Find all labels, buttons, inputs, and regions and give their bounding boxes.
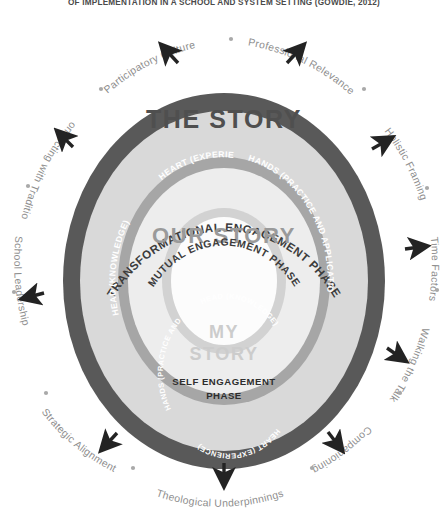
enabler-label-school-leadership: School Leadership (12, 236, 32, 327)
arrow-icon-time-factors (405, 247, 420, 249)
separator-dot (99, 87, 103, 91)
separator-dot (26, 184, 30, 188)
enabler-label-connecting-with-tradition: Connecting with Tradition (0, 0, 78, 221)
arrow-icon-companioning (328, 432, 338, 445)
my-story-heading-line2: STORY (189, 344, 258, 364)
enabler-label-time-factors: Time Factors (427, 236, 441, 302)
separator-dot (362, 87, 366, 91)
enabler-label-companioning: Companioning (310, 424, 374, 476)
enabler-label-theological-underpinnings: Theological Underpinnings (155, 488, 285, 509)
arrow-icon-walking-the-talk (387, 348, 400, 357)
arrow-icon-strategic-alignment (106, 433, 117, 445)
separator-dot (435, 288, 439, 292)
my-story-subheading-line1: SELF ENGAGEMENT (172, 376, 275, 387)
separator-dot (131, 466, 135, 470)
enabler-label-walking-the-talk: Walking the Talk (387, 327, 431, 405)
concentric-engagement-diagram: HEAD (KNOWLEDGE) HEART (EXPERIENCE) HAND… (0, 0, 448, 524)
the-story-heading: THE STORY (146, 105, 302, 133)
separator-dot (229, 37, 233, 41)
enabler-label-holistic-framing: Holistic Framing (383, 126, 430, 202)
separator-dot (425, 186, 429, 190)
separator-dot (44, 391, 48, 395)
arrow-icon-school-leadership (29, 293, 44, 297)
separator-dot (12, 290, 16, 294)
my-story-heading-line1: MY (209, 322, 239, 342)
label-head-outer: HEAD (KNOWLEDGE) (41, 213, 61, 320)
enabler-label-strategic-alignment: Strategic Alignment (40, 406, 119, 474)
diagram-canvas: OF IMPLEMENTATION IN A SCHOOL AND SYSTEM… (0, 0, 448, 524)
arrow-icon-holistic-framing (372, 141, 386, 149)
separator-dot (398, 391, 402, 395)
separator-dot (310, 466, 314, 470)
my-story-subheading-line2: PHASE (206, 390, 242, 401)
